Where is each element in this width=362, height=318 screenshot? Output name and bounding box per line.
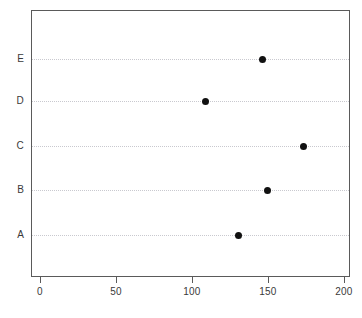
x-axis-tick-label: 50	[110, 286, 122, 297]
data-point	[264, 187, 271, 194]
gridline	[32, 101, 349, 102]
y-axis-tick-label: A	[2, 229, 24, 240]
data-point	[235, 232, 242, 239]
x-axis-tick-mark	[344, 277, 345, 283]
y-axis-tick-label: C	[2, 140, 24, 151]
x-axis-tick-mark	[40, 277, 41, 283]
data-point	[300, 143, 307, 150]
plot-panel	[31, 10, 350, 277]
x-axis-tick-mark	[268, 277, 269, 283]
gridline	[32, 190, 349, 191]
x-axis-tick-label: 100	[183, 286, 200, 297]
x-axis-tick-mark	[192, 277, 193, 283]
y-axis-tick-label: E	[2, 53, 24, 64]
dot-chart: ABCDE 050100150200	[0, 0, 362, 318]
y-axis-tick-label: B	[2, 184, 24, 195]
x-axis-tick-label: 200	[335, 286, 352, 297]
x-axis-tick-mark	[116, 277, 117, 283]
x-axis-tick-label: 150	[259, 286, 276, 297]
chart-title	[0, 0, 362, 2]
gridline	[32, 59, 349, 60]
data-point	[259, 56, 266, 63]
gridline	[32, 235, 349, 236]
x-axis-tick-label: 0	[37, 286, 43, 297]
y-axis-tick-label: D	[2, 95, 24, 106]
data-point	[202, 98, 209, 105]
